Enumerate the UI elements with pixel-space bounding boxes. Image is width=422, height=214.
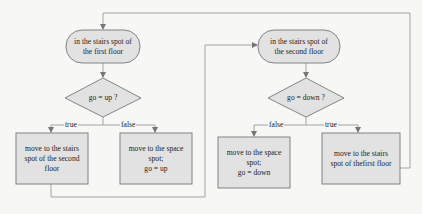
node-act1-false: move to the space spot; go = up — [120, 133, 192, 184]
node-dec2-text: go = down ? — [287, 93, 325, 103]
node-dec1: go = up ? — [70, 88, 136, 108]
node-start2-line1: in the stairs spot of — [270, 37, 328, 47]
edge-label-dec2-true: true — [324, 120, 338, 129]
node-act1-false-line1: move to the space — [129, 144, 184, 154]
node-act2-false-line2: spot; — [247, 158, 262, 168]
node-start1-line2: the first floor — [83, 47, 123, 57]
node-act1-true-line2: spot of the second — [24, 154, 79, 164]
node-act1-true-line1: move to the stairs — [25, 144, 79, 154]
node-act1-false-line2: spot; — [149, 154, 164, 164]
node-act2-false: move to the space spot; go = down — [218, 137, 290, 188]
node-act1-true: move to the stairs spot of the second fl… — [16, 133, 88, 184]
node-start1-line1: in the stairs spot of — [74, 37, 132, 47]
node-act2-false-line1: move to the space — [227, 148, 282, 158]
edge-label-dec2-false: false — [268, 120, 284, 129]
node-start2-line2: the second floor — [275, 47, 324, 57]
node-act2-true: move to the stairs spot of thefirst floo… — [322, 133, 400, 184]
node-dec1-text: go = up ? — [89, 93, 118, 103]
edge-label-dec1-false: false — [120, 120, 136, 129]
node-act2-true-line2: spot of thefirst floor — [331, 159, 392, 169]
node-act2-true-line1: move to the stairs — [334, 149, 388, 159]
node-dec2: go = down ? — [270, 88, 342, 108]
node-start1: in the stairs spot of the first floor — [66, 30, 140, 63]
node-act1-true-line3: floor — [45, 164, 60, 174]
edge-label-dec1-true: true — [64, 120, 78, 129]
node-act2-false-line3: go = down — [238, 168, 271, 178]
node-start2: in the stairs spot of the second floor — [258, 30, 340, 63]
node-act1-false-line3: go = up — [144, 164, 167, 174]
